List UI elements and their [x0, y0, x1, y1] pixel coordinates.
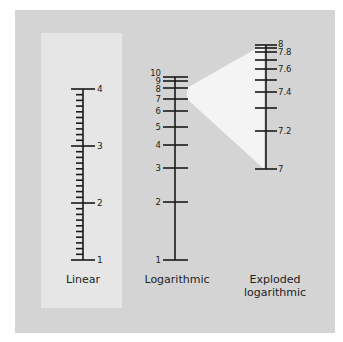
scales-diagram: 4 3 2 1 Linear 10 9 8 7 6 5 4 3 2 1 Loga… — [0, 0, 343, 342]
exploded-label-7: 7 — [278, 164, 283, 174]
linear-label-3: 3 — [97, 141, 103, 151]
exploded-label-7-6: 7.6 — [278, 64, 292, 74]
linear-label-4: 4 — [97, 84, 103, 94]
log-label-8: 8 — [156, 84, 161, 94]
log-label-3: 3 — [156, 163, 161, 173]
linear-highlight-panel — [41, 33, 122, 308]
log-label-1: 1 — [156, 255, 161, 265]
linear-label-1: 1 — [97, 255, 103, 265]
exploded-label-7-8: 7.8 — [278, 47, 292, 57]
exploded-caption-line2: logarithmic — [244, 286, 306, 299]
log-label-7: 7 — [156, 94, 161, 104]
log-label-2: 2 — [156, 197, 161, 207]
log-label-6: 6 — [156, 106, 161, 116]
linear-caption: Linear — [66, 273, 101, 286]
log-label-5: 5 — [156, 122, 161, 132]
log-label-4: 4 — [156, 140, 161, 150]
exploded-label-7-2: 7.2 — [278, 126, 292, 136]
log-caption: Logarithmic — [144, 273, 209, 286]
exploded-caption-line1: Exploded — [250, 273, 301, 286]
linear-label-2: 2 — [97, 198, 103, 208]
exploded-label-7-4: 7.4 — [278, 87, 292, 97]
